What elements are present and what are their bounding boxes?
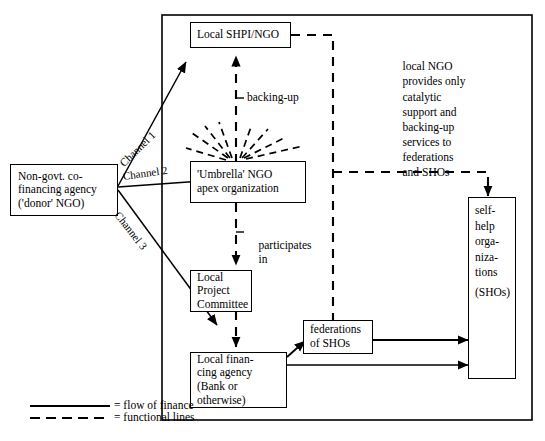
umbrella-line-2: apex organization [197,182,299,196]
donor-line-3: ('donor' NGO) [18,197,110,211]
participates-in-line-1: participates [259,239,312,251]
backing-up-label: backing-up [247,91,299,105]
participates-in-label: participates in [247,225,312,280]
umbrella-ngo-box[interactable]: 'Umbrella' NGO apex organization [190,161,306,203]
sho-line-5: tions [475,265,509,281]
radiating-burst-lines [186,122,303,160]
federations-line-2: of SHOs [310,337,366,351]
note-line-7: federations [403,151,454,163]
local-ngo-note: local NGO provides only catalytic suppor… [391,44,465,196]
sho-line-4: niza- [475,250,509,266]
note-line-2: provides only [403,75,466,87]
participates-in-line-2: in [259,253,268,265]
note-line-3: catalytic [403,91,442,103]
financing-line-1: Local finan- [197,353,280,367]
local-shpi-label: Local SHPI/NGO [197,28,284,42]
diagram-canvas: Non-govt. co- financing agency ('donor' … [0,0,545,441]
sho-line-1: self- [475,203,509,219]
note-line-8: and SHOs [403,166,450,178]
financing-line-3: (Bank or [197,380,280,394]
local-financing-agency-box[interactable]: Local finan- cing agency (Bank or otherw… [190,352,287,408]
note-line-5: backing-up [403,121,455,133]
non-govt-co-financing-agency-box[interactable]: Non-govt. co- financing agency ('donor' … [10,164,118,216]
note-line-4: support and [403,106,457,118]
committee-line-3: Committee [197,298,245,312]
sho-line-3: orga- [475,234,509,250]
financing-line-2: cing agency [197,366,280,380]
sho-line-2: help [475,219,509,235]
sho-line-7: (SHOs) [475,285,509,301]
federations-of-shos-box[interactable]: federations of SHOs [303,320,373,354]
donor-line-1: Non-govt. co- [18,170,110,184]
legend-dashed-label: = functional lines [114,411,195,425]
committee-line-2: Project [197,284,245,298]
local-shpi-ngo-box[interactable]: Local SHPI/NGO [190,22,291,48]
note-line-6: services to [403,136,452,148]
note-line-1: local NGO [403,60,453,72]
donor-line-2: financing agency [18,183,110,197]
committee-line-1: Local [197,271,245,285]
umbrella-line-1: 'Umbrella' NGO [197,168,299,182]
self-help-organizations-box[interactable]: self- help orga- niza- tions (SHOs) [468,197,516,379]
federations-line-1: federations [310,323,366,337]
financing-line-4: otherwise) [197,394,280,408]
local-project-committee-box[interactable]: Local Project Committee [190,270,252,312]
